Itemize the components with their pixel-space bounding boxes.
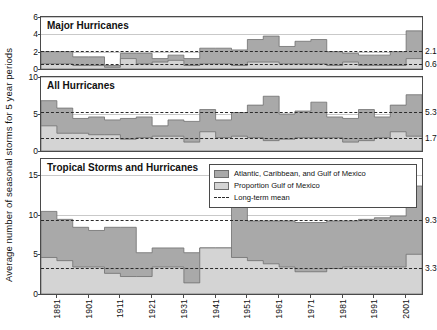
- panel-title-major-hurricanes: Major Hurricanes: [47, 20, 129, 31]
- x-axis-tick-mark: [278, 295, 279, 298]
- legend-label-mean: Long-term mean: [234, 194, 290, 202]
- legend-swatch-atlantic: [214, 170, 229, 178]
- x-axis-tick-label: 1971: [306, 299, 316, 319]
- x-axis-tick-mark: [246, 295, 247, 298]
- legend-item-mean: Long-term mean: [214, 192, 412, 203]
- legend: Atlantic, Caribbean, and Gulf of Mexico …: [209, 164, 417, 208]
- long-term-mean-value-label: 5.3: [425, 107, 437, 117]
- x-axis-tick-mark: [88, 295, 89, 298]
- x-axis-tick-label: 1961: [274, 299, 284, 319]
- long-term-mean-value-label: 9.3: [425, 215, 437, 225]
- y-axis-tick-mark: [38, 151, 41, 152]
- x-axis-tick-label: 2001: [401, 299, 411, 319]
- long-term-mean-line: [41, 112, 422, 113]
- x-axis-tick-label: 1901: [84, 299, 94, 319]
- y-axis-tick-label: 10: [29, 72, 38, 82]
- x-axis-tick-mark: [151, 295, 152, 298]
- y-axis-tick-mark: [38, 294, 41, 295]
- y-axis-label: Average number of seasonal storms for 5 …: [0, 0, 16, 330]
- long-term-mean-line: [41, 64, 422, 65]
- panel-title-all-hurricanes: All Hurricanes: [47, 80, 115, 91]
- y-axis-tick-mark: [38, 69, 41, 70]
- x-axis-tick-mark: [342, 295, 343, 298]
- x-axis-tick-mark: [119, 295, 120, 298]
- legend-swatch-gulf: [214, 182, 229, 190]
- panel-major-hurricanes: Major Hurricanes 02462.10.6: [40, 16, 423, 70]
- long-term-mean-line: [41, 51, 422, 52]
- x-axis-tick-mark: [310, 295, 311, 298]
- long-term-mean-value-label: 3.3: [425, 263, 437, 273]
- long-term-mean-line: [41, 138, 422, 139]
- long-term-mean-value-label: 1.7: [425, 133, 437, 143]
- x-axis-tick-mark: [373, 295, 374, 298]
- x-axis-tick-label: 1951: [242, 299, 252, 319]
- long-term-mean-value-label: 2.1: [425, 46, 437, 56]
- x-axis-tick-label: 1981: [338, 299, 348, 319]
- long-term-mean-value-label: 0.6: [425, 59, 437, 69]
- x-axis-tick-label: 1921: [147, 299, 157, 319]
- legend-item-gulf: Proportion Gulf of Mexico: [214, 180, 412, 191]
- x-axis-tick-label: 1991: [369, 299, 379, 319]
- long-term-mean-line: [41, 268, 422, 269]
- long-term-mean-line: [41, 220, 422, 221]
- x-axis-tick-mark: [183, 295, 184, 298]
- y-axis-tick-label: 10: [29, 210, 38, 220]
- x-axis-tick-label: 1941: [211, 299, 221, 319]
- x-axis-tick-mark: [215, 295, 216, 298]
- legend-label-atlantic: Atlantic, Caribbean, and Gulf of Mexico: [234, 170, 366, 178]
- x-axis-tick-label: 1911: [115, 299, 125, 318]
- panel-all-hurricanes: All Hurricanes 05105.31.7: [40, 76, 423, 152]
- panel-tropical-storms-and-hurricanes: Tropical Storms and Hurricanes Atlantic,…: [40, 158, 423, 295]
- y-axis-tick-label: 15: [29, 170, 38, 180]
- legend-dash-mean: [214, 197, 229, 198]
- x-axis-tick-mark: [405, 295, 406, 298]
- legend-label-gulf: Proportion Gulf of Mexico: [234, 182, 320, 190]
- panel-title-tropical-storms: Tropical Storms and Hurricanes: [47, 162, 198, 173]
- x-axis-tick-mark: [56, 295, 57, 298]
- x-axis-tick-label: 1891: [52, 299, 62, 319]
- x-axis-tick-label: 1931: [179, 299, 189, 319]
- legend-item-atlantic: Atlantic, Caribbean, and Gulf of Mexico: [214, 168, 412, 179]
